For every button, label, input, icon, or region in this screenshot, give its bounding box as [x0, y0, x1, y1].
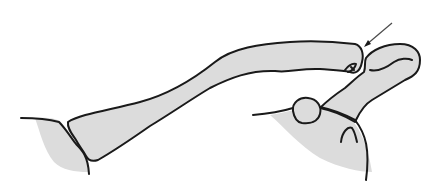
coracoid-process [293, 98, 321, 123]
anatomical-figure [0, 0, 442, 192]
clavicle-illustration [0, 0, 442, 192]
pointer-arrow [366, 23, 392, 45]
